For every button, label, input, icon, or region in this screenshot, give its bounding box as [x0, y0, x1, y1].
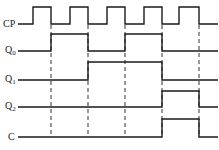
label-text: CP	[3, 18, 15, 29]
waveform-q0	[18, 34, 218, 51]
waveform-canvas	[0, 0, 219, 150]
signal-label-q2: Q2	[5, 101, 16, 111]
waveform-q1	[18, 62, 218, 80]
label-text: C	[8, 131, 15, 142]
signal-label-cp: CP	[3, 19, 15, 29]
waveform-q2	[18, 91, 218, 107]
signal-label-c: C	[8, 132, 15, 142]
timing-diagram: CP Q0 Q1 Q2 C	[0, 0, 219, 150]
waveform-cp	[18, 7, 218, 24]
waveform-c	[18, 119, 218, 137]
label-subscript: 0	[12, 49, 16, 57]
signal-label-q0: Q0	[5, 45, 16, 55]
label-subscript: 2	[12, 105, 16, 113]
label-subscript: 1	[12, 78, 16, 86]
signal-label-q1: Q1	[5, 74, 16, 84]
